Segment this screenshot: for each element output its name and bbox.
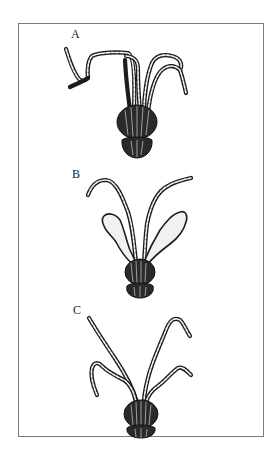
panel-c-body (124, 400, 158, 438)
panel-a-drawing (66, 49, 186, 158)
panel-a-tubules (66, 49, 186, 112)
panel-b-drawing (88, 178, 191, 298)
panel-c-drawing (89, 318, 191, 438)
figure-illustration (0, 0, 279, 455)
panel-a-body (117, 105, 157, 158)
panel-b-body (125, 259, 155, 298)
panel-c-tubules (89, 318, 191, 402)
